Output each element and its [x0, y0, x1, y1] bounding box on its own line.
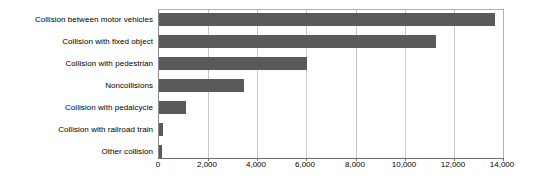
- x-tick-label: 0: [156, 160, 160, 170]
- bar-collision-with-railroad-train: [159, 123, 163, 136]
- gridline-4000: [257, 10, 258, 158]
- gridline-8000: [356, 10, 357, 158]
- x-tick-label: 8,000: [345, 160, 365, 170]
- bar-chart: Collision between motor vehicles Collisi…: [0, 0, 534, 181]
- category-axis-labels: Collision between motor vehicles Collisi…: [0, 9, 153, 157]
- x-tick-label: 6,000: [295, 160, 315, 170]
- bar-collision-with-pedalcycle: [159, 101, 186, 114]
- x-tick-label: 2,000: [197, 160, 217, 170]
- category-label: Noncollisions: [0, 81, 153, 90]
- plot-area: [158, 9, 504, 159]
- x-tick-label: 12,000: [441, 160, 465, 170]
- value-axis-labels: 0 2,000 4,000 6,000 8,000 10,000 12,000 …: [0, 160, 534, 174]
- gridline-14000: [503, 10, 504, 158]
- category-label: Collision with fixed object: [0, 37, 153, 46]
- gridline-12000: [454, 10, 455, 158]
- category-label: Collision with pedestrian: [0, 59, 153, 68]
- category-label: Collision with pedalcycle: [0, 103, 153, 112]
- bar-noncollisions: [159, 79, 244, 92]
- category-label: Collision with railroad train: [0, 125, 153, 134]
- gridline-6000: [306, 10, 307, 158]
- gridline-10000: [405, 10, 406, 158]
- x-tick-label: 4,000: [246, 160, 266, 170]
- bar-collision-between-motor-vehicles: [159, 13, 495, 26]
- bar-other-collision: [159, 145, 162, 158]
- x-tick-label: 10,000: [392, 160, 416, 170]
- bar-collision-with-pedestrian: [159, 57, 307, 70]
- bar-collision-with-fixed-object: [159, 35, 436, 48]
- category-label: Collision between motor vehicles: [0, 15, 153, 24]
- category-label: Other collision: [0, 147, 153, 156]
- x-tick-label: 14,000: [490, 160, 514, 170]
